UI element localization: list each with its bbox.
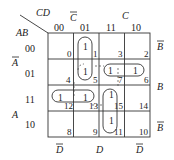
cell-index: 5 bbox=[93, 75, 98, 85]
cell-value: 1 bbox=[109, 90, 114, 100]
label-c-bar: C bbox=[70, 12, 77, 23]
cell-index: 8 bbox=[67, 127, 72, 137]
cell-value: 1 bbox=[133, 66, 138, 76]
col-code-00: 00 bbox=[54, 22, 64, 33]
row-code-01: 01 bbox=[25, 68, 35, 79]
label-d-bar-right: D bbox=[135, 144, 144, 155]
col-var-label: CD bbox=[36, 7, 51, 18]
cell-value: 1 bbox=[58, 93, 63, 103]
col-code-01: 01 bbox=[80, 22, 90, 33]
cell-index: 6 bbox=[144, 75, 149, 85]
col-code-10: 10 bbox=[131, 22, 141, 33]
label-d: D bbox=[95, 144, 104, 155]
cell-value: 1 bbox=[109, 116, 114, 126]
cell-index: 14 bbox=[139, 101, 149, 111]
label-c: C bbox=[122, 10, 129, 21]
row-code-11: 11 bbox=[25, 94, 35, 105]
label-b-bar-bottom: B bbox=[157, 122, 163, 133]
cell-value: 1 bbox=[83, 93, 88, 103]
label-a-bar: A bbox=[11, 57, 19, 68]
col-code-11: 11 bbox=[106, 22, 116, 33]
cell-index: 10 bbox=[139, 127, 149, 137]
cell-index: 3 bbox=[118, 49, 123, 59]
cell-index: 15 bbox=[114, 101, 124, 111]
cell-index: 12 bbox=[64, 101, 73, 111]
row-var-label: AB bbox=[15, 27, 28, 38]
map-grid bbox=[48, 33, 150, 137]
cell-index: 2 bbox=[144, 49, 149, 59]
cell-value: 1 bbox=[108, 66, 113, 76]
label-b: B bbox=[157, 81, 163, 92]
cell-index: 9 bbox=[93, 127, 98, 137]
cell-indices: 0 1 3 2 4 5 7 6 12 13 15 14 8 9 11 10 bbox=[64, 49, 149, 137]
cell-index: 0 bbox=[67, 49, 72, 59]
cell-index: 13 bbox=[89, 101, 99, 111]
label-b-bar-top: B bbox=[157, 41, 163, 52]
row-code-00: 00 bbox=[25, 43, 35, 54]
label-a: A bbox=[11, 109, 19, 120]
cell-index: 1 bbox=[93, 49, 98, 59]
cell-value: 1 bbox=[83, 67, 88, 77]
cell-index: 7 bbox=[118, 75, 123, 85]
label-d-bar-left: D bbox=[55, 144, 64, 155]
cell-index: 11 bbox=[114, 127, 123, 137]
karnaugh-map: CD AB 00 01 11 10 C C 00 01 11 10 A A B … bbox=[0, 0, 174, 160]
cell-value: 1 bbox=[83, 42, 88, 52]
cell-index: 4 bbox=[66, 75, 71, 85]
row-code-10: 10 bbox=[25, 119, 35, 130]
